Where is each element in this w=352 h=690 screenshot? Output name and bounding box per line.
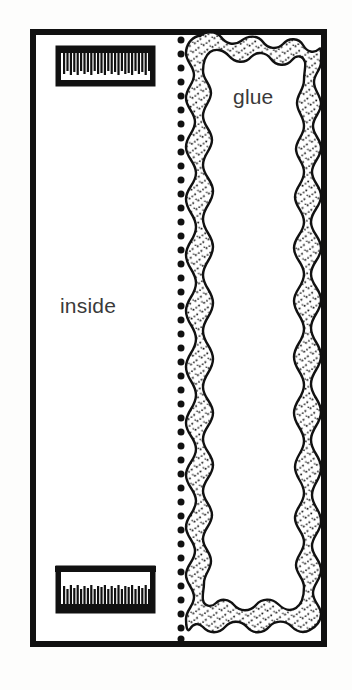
comb-top xyxy=(56,46,155,86)
comb-bottom xyxy=(55,566,156,613)
diagram-canvas xyxy=(0,0,352,690)
figure-root: inside glue xyxy=(0,0,352,690)
label-inside: inside xyxy=(60,294,116,318)
glue-band xyxy=(180,30,330,650)
label-glue: glue xyxy=(233,85,274,109)
